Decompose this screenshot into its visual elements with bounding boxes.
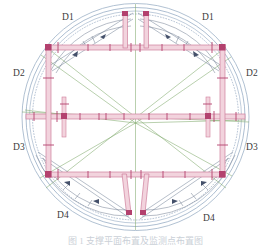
strut-top-right-vertical [144,12,149,48]
diagonal-lower-right [136,123,233,176]
chord-right-mid [136,120,247,123]
node-top-strut-l [122,11,128,16]
node-mid-left [61,113,67,119]
label-d3-left: D3 [13,142,25,152]
arrow-br [201,181,207,186]
strut-bottom-right-vertical [141,174,150,213]
label-d1-left: D1 [62,12,74,22]
figure-caption: 图 1 支撑平面布置及监测点布置图 [0,235,271,245]
label-d2-left: D2 [13,68,25,78]
arrow-bl2 [93,199,99,204]
arrow-tr2 [193,51,199,57]
arrow-tl2 [72,51,78,57]
diagonal-lower-left [40,123,136,178]
label-d1-right: D1 [202,12,214,22]
beam-top-horizontal [46,45,225,50]
node-mid-right [205,113,211,119]
ladder-rung-br-3 [191,193,196,199]
diagonal-upper-left [41,55,136,123]
ladder-rung-br-4 [179,200,183,206]
ladder-rung-bl-2 [63,184,69,190]
node-tr [219,44,226,51]
arrow-bl [64,181,70,186]
arrow-tr [165,34,171,39]
node-top-strut-r [143,11,149,16]
brace-band-br-b [140,158,229,219]
label-d4-right: D4 [203,213,215,223]
beam-middle-horizontal [26,114,245,119]
node-bot-strut-l [126,210,132,215]
node-bl [45,171,52,178]
label-d4-left: D4 [57,210,69,220]
label-d3-right: D3 [246,142,258,152]
node-br [219,171,226,178]
node-bot-strut-r [140,210,146,215]
ladder-rung-bl-3 [75,193,80,199]
node-tl [45,44,52,51]
ladder-rung-br-2 [202,184,208,190]
beam-bottom-horizontal [46,172,225,177]
arrow-tl [100,34,106,39]
ladder-rung-bl-4 [88,200,92,206]
brace-band-br-a [140,152,233,214]
brace-band-bl-b [42,158,131,219]
diagonal-upper-right [136,57,232,123]
column-left-vertical [46,45,51,177]
label-d2-right: D2 [246,68,258,78]
arrow-br2 [172,199,178,204]
strut-top-left-vertical [123,12,128,48]
column-right-vertical [220,45,225,177]
strut-bottom-left-vertical [122,174,131,213]
